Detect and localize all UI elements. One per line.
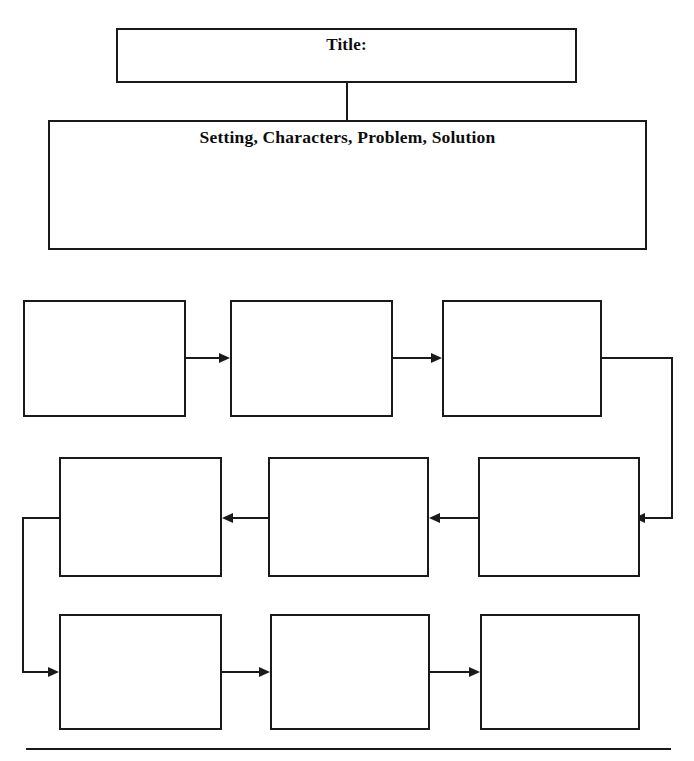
- footer-rule: [26, 748, 671, 750]
- arrow-cell4-to-cell5-shaft: [440, 517, 478, 519]
- arrow-cell1-to-cell2-shaft: [186, 357, 219, 359]
- sequence-cell-4[interactable]: [478, 457, 640, 577]
- sequence-cell-8[interactable]: [270, 614, 430, 730]
- wrap-row1-to-row2-bottom: [645, 517, 673, 519]
- arrow-cell2-to-cell3-head: [431, 353, 442, 363]
- wrap-row2-to-row3-top: [22, 517, 59, 519]
- arrow-cell8-to-cell9-shaft: [430, 671, 469, 673]
- arrow-cell7-to-cell8-shaft: [222, 671, 259, 673]
- wrap-row1-to-row2-vertical: [671, 357, 673, 518]
- arrow-cell2-to-cell3-shaft: [393, 357, 431, 359]
- arrow-cell5-to-cell6-head: [222, 513, 233, 523]
- wrap-row1-to-row2-top: [602, 357, 673, 359]
- arrow-cell5-to-cell6-shaft: [233, 517, 268, 519]
- wrap-row2-to-row3-bottom: [22, 671, 48, 673]
- sequence-cell-7[interactable]: [59, 614, 222, 730]
- connector-title-to-elements: [346, 83, 348, 120]
- worksheet-canvas: Title: Setting, Characters, Problem, Sol…: [0, 0, 694, 761]
- arrow-cell4-to-cell5-head: [429, 513, 440, 523]
- title-box-label: Title:: [118, 30, 575, 53]
- story-elements-box[interactable]: Setting, Characters, Problem, Solution: [48, 120, 647, 250]
- wrap-row2-to-row3-vertical: [22, 517, 24, 672]
- arrow-cell7-to-cell8-head: [259, 667, 270, 677]
- sequence-cell-2[interactable]: [230, 300, 393, 417]
- sequence-cell-1[interactable]: [23, 300, 186, 417]
- title-box[interactable]: Title:: [116, 28, 577, 83]
- sequence-cell-9[interactable]: [480, 614, 640, 730]
- story-elements-label: Setting, Characters, Problem, Solution: [50, 122, 645, 147]
- sequence-cell-3[interactable]: [442, 300, 602, 417]
- arrow-cell1-to-cell2-head: [219, 353, 230, 363]
- sequence-cell-6[interactable]: [59, 457, 222, 577]
- sequence-cell-5[interactable]: [268, 457, 429, 577]
- wrap-row2-to-row3-head: [48, 667, 59, 677]
- arrow-cell8-to-cell9-head: [469, 667, 480, 677]
